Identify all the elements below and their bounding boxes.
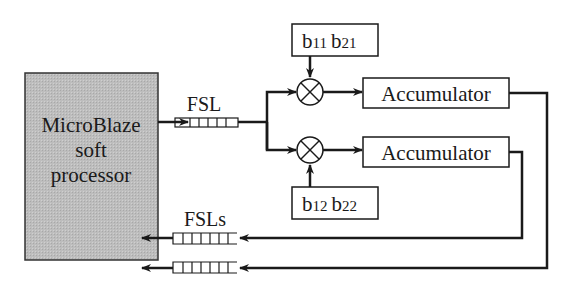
fsl-input-label: FSL (187, 93, 221, 115)
processor-label-line1: MicroBlaze (41, 113, 140, 137)
fsl-output-queue-2 (142, 262, 237, 273)
accumulator-bottom: Accumulator (363, 137, 509, 167)
microblaze-processor-block: MicroBlaze soft processor (25, 73, 158, 260)
processor-label-line3: processor (51, 163, 131, 187)
fsl-input-queue (158, 118, 238, 127)
wire-acc-top-return (240, 93, 547, 268)
coefficient-box-top: b11b21 (292, 24, 378, 77)
multiplier-bottom (297, 137, 323, 163)
fanout-wires (238, 92, 296, 150)
svg-text:Accumulator: Accumulator (381, 82, 491, 106)
accumulator-top: Accumulator (363, 78, 509, 108)
processor-label-line2: soft (75, 138, 107, 162)
fsls-output-label: FSLs (184, 208, 226, 230)
svg-text:Accumulator: Accumulator (381, 141, 491, 165)
diagram-canvas: MicroBlaze soft processor FSL b11b21 (0, 0, 568, 292)
multiplier-top (297, 79, 323, 105)
coefficient-box-bottom: b12b22 (292, 165, 378, 219)
